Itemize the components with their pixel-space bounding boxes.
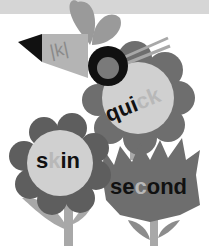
word-skin-highlight: k: [48, 148, 60, 173]
word-skin-prefix: s: [36, 148, 48, 173]
illustration-graphics: [0, 0, 209, 246]
word-second: second: [110, 174, 187, 200]
phonics-illustration: |k| quick skin second: [0, 0, 209, 246]
word-second-suffix: ond: [147, 174, 187, 199]
bee-stinger: [18, 34, 42, 62]
bee-eye: [97, 57, 119, 79]
word-second-prefix: se: [110, 174, 134, 199]
word-skin-suffix: in: [61, 148, 81, 173]
word-skin: skin: [36, 148, 80, 174]
word-second-highlight: c: [134, 174, 146, 199]
